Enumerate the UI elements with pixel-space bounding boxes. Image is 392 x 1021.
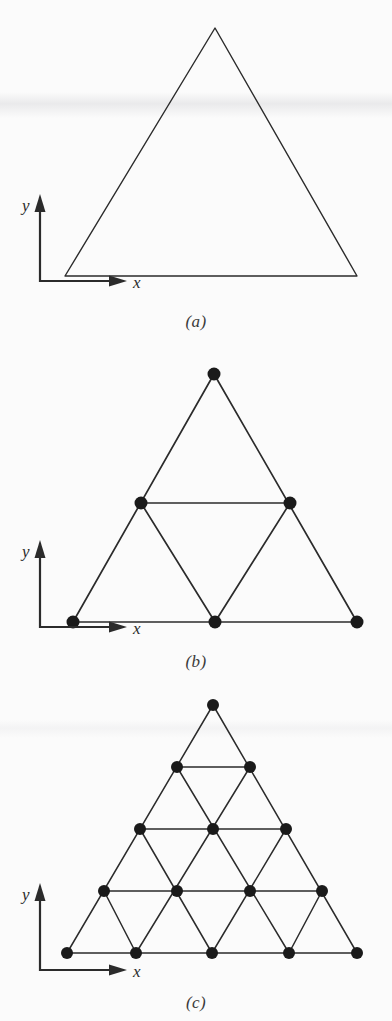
y-axis-arrow-icon: [35, 540, 46, 558]
caption-panel-b: (b): [0, 652, 392, 672]
triangle-outline-a: [65, 28, 357, 276]
mesh-node: [171, 885, 183, 897]
mesh-node: [135, 497, 148, 510]
mesh-node: [244, 761, 256, 773]
x-axis-label: x: [132, 619, 141, 638]
mesh-node: [351, 947, 363, 959]
y-axis-arrow-icon: [35, 194, 46, 212]
mesh-node: [98, 885, 110, 897]
y-axis-label: y: [20, 542, 30, 561]
x-axis-label: x: [132, 962, 141, 981]
axes-a: y x: [20, 194, 141, 292]
y-axis-label: y: [20, 196, 30, 215]
y-axis-label: y: [20, 885, 30, 904]
mesh-node: [208, 368, 221, 381]
x-axis-label: x: [132, 273, 141, 292]
mesh-node: [316, 885, 328, 897]
panel-a: y x (a): [0, 0, 392, 340]
mesh-node: [244, 885, 256, 897]
x-axis-arrow-icon: [109, 276, 127, 287]
mesh-nodes-c: [61, 699, 363, 959]
mesh-node: [283, 947, 295, 959]
mesh-nodes-b: [67, 368, 364, 629]
axes-b: y x: [20, 540, 141, 638]
mesh-node: [130, 947, 142, 959]
y-axis-arrow-icon: [35, 883, 46, 901]
mesh-node: [209, 616, 222, 629]
mesh-edges-b: [73, 374, 357, 622]
mesh-node: [284, 497, 297, 510]
mesh-node: [134, 823, 146, 835]
caption-panel-a: (a): [0, 312, 392, 332]
panel-b: y x (b): [0, 340, 392, 680]
mesh-node: [171, 761, 183, 773]
x-axis-arrow-icon: [109, 622, 127, 633]
mesh-node: [207, 823, 219, 835]
mesh-node: [280, 823, 292, 835]
caption-panel-c: (c): [0, 993, 392, 1013]
axes-c: y x: [20, 883, 141, 981]
mesh-node: [351, 616, 364, 629]
mesh-node: [61, 947, 73, 959]
mesh-node: [207, 699, 219, 711]
panel-c: y x (c): [0, 680, 392, 1021]
x-axis-arrow-icon: [109, 965, 127, 976]
mesh-node: [206, 947, 218, 959]
